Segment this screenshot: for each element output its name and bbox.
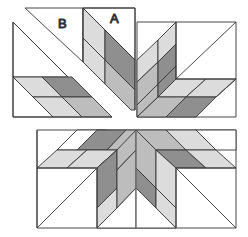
top-right-unit	[137, 22, 236, 117]
top-left-unit: B A	[13, 8, 135, 117]
label-piece-a: A	[110, 11, 119, 26]
label-piece-b: B	[58, 16, 67, 31]
bottom-unit	[37, 130, 236, 228]
quilt-block-diagram: B A	[0, 0, 248, 237]
